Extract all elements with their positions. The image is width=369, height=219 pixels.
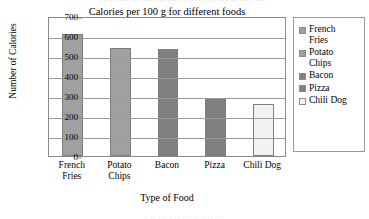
chart-screenshot: · · ·· ··· ·· ···· ··· ··· ·· · ·· · ·· … [0,0,369,219]
legend-label: Bacon [309,70,333,81]
y-axis-tick-label: 700 [52,13,78,22]
x-axis-category-label: Pizza [191,160,239,171]
gridline [49,38,285,39]
gridline [49,138,285,139]
legend-swatch [299,27,306,34]
y-axis-tick-mark [78,77,82,78]
y-axis-tick-mark [78,17,82,18]
gridline [49,78,285,79]
legend-item: Potato Chips [299,47,364,68]
y-axis-tick-mark [78,117,82,118]
x-axis-category-label: Potato Chips [96,160,144,181]
bar [158,49,179,156]
y-axis-tick-label: 500 [52,53,78,62]
y-axis-tick-label: 600 [52,33,78,42]
y-axis-tick-mark [78,97,82,98]
x-axis-category-label: French Fries [48,160,96,181]
legend-swatch [299,98,306,105]
legend-item: Bacon [299,70,364,81]
gridline [49,118,285,119]
y-axis-tick-label: 400 [52,73,78,82]
x-axis-label: Type of Food [48,192,286,203]
legend-label: Chili Dog [309,95,347,106]
chart-title: Calories per 100 g for different foods [48,6,286,17]
bar [253,104,274,156]
y-axis-tick-mark [78,37,82,38]
bar-chart-figure: Calories per 100 g for different foods N… [0,0,369,219]
legend-swatch [299,50,306,57]
bar [205,98,226,156]
x-axis-category-label: Bacon [143,160,191,171]
y-axis-tick-label: 100 [52,133,78,142]
y-axis-tick-mark [78,57,82,58]
y-axis-tick-label: 200 [52,113,78,122]
y-axis-tick-label: 300 [52,93,78,102]
legend-label: French Fries [309,24,335,45]
legend-item: French Fries [299,24,364,45]
x-axis-category-label: Chili Dog [238,160,286,171]
legend-item: Pizza [299,83,364,94]
chart-legend: French FriesPotato ChipsBaconPizzaChili … [293,17,365,152]
y-axis-label: Number of Calories [8,1,18,121]
legend-item: Chili Dog [299,95,364,106]
y-axis-tick-mark [78,137,82,138]
scan-bleed-bottom: · ·· ··· · ·· ··· ·· ···· ··· [0,213,369,219]
gridline [49,58,285,59]
legend-swatch [299,85,306,92]
legend-swatch [299,73,306,80]
legend-label: Pizza [309,83,330,94]
gridline [49,98,285,99]
bar [110,48,131,156]
plot-area [48,17,286,157]
y-axis-tick-mark [78,157,82,158]
legend-label: Potato Chips [309,47,333,68]
